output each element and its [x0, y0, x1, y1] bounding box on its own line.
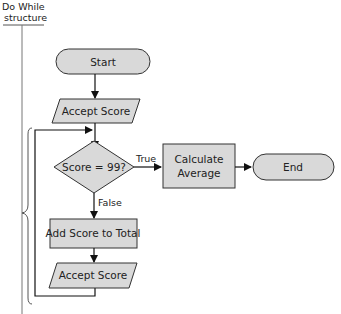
end-label: End: [283, 161, 303, 173]
add-score-label: Add Score to Total: [46, 227, 141, 239]
calculate-average-node: [163, 144, 235, 188]
accept-score-2-label: Accept Score: [59, 269, 128, 281]
annotation-line1: Do While: [2, 1, 45, 12]
annotation-line2: structure: [4, 12, 47, 23]
flowchart: Do While structure Start Accept Score Sc…: [0, 0, 341, 314]
start-label: Start: [90, 56, 116, 68]
accept-score-1-label: Accept Score: [62, 105, 131, 117]
decision-label: Score = 99?: [62, 161, 126, 173]
false-label: False: [98, 197, 122, 208]
brace: [22, 128, 32, 304]
true-label: True: [135, 153, 156, 164]
calc-label-line2: Average: [177, 167, 220, 179]
calc-label-line1: Calculate: [174, 153, 223, 165]
